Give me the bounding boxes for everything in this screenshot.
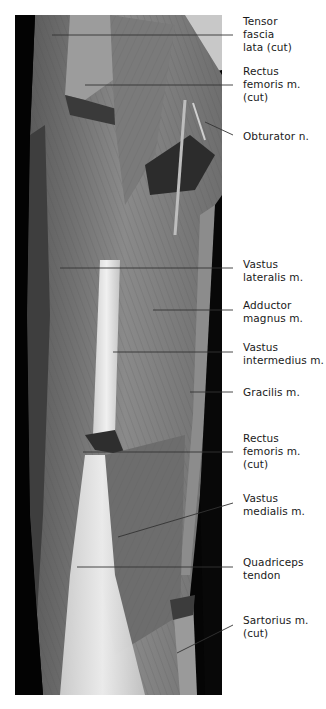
label-vastus-lateralis: Vastus lateralis m. xyxy=(243,258,303,284)
label-vastus-medialis: Vastus medialis m. xyxy=(243,492,305,518)
label-sartorius-cut: Sartorius m. (cut) xyxy=(243,614,308,640)
label-vastus-intermedius: Vastus intermedius m. xyxy=(243,341,324,367)
label-quadriceps-tendon: Quadriceps tendon xyxy=(243,556,304,582)
label-rectus-femoris-cut-lower: Rectus femoris m. (cut) xyxy=(243,432,300,471)
label-tensor-fascia-lata: Tensor fascia lata (cut) xyxy=(243,15,292,54)
label-adductor-magnus: Adductor magnus m. xyxy=(243,299,303,325)
anatomy-figure: Tensor fascia lata (cut) Rectus femoris … xyxy=(0,0,326,709)
label-gracilis: Gracilis m. xyxy=(243,386,300,399)
thigh-dissection-photo xyxy=(15,15,222,695)
label-rectus-femoris-cut-upper: Rectus femoris m. (cut) xyxy=(243,65,300,104)
label-obturator-n: Obturator n. xyxy=(243,130,309,143)
